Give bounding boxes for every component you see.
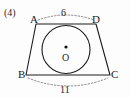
vertex-label-d: D [92, 14, 100, 25]
item-number-label: (4) [4, 8, 16, 18]
geometry-figure: (4) A D B C O 6 11 [0, 0, 131, 98]
vertex-label-a: A [30, 14, 38, 25]
vertex-label-c: C [111, 69, 118, 80]
circle-center-label: O [62, 53, 69, 63]
measure-arc-top [38, 15, 94, 20]
measure-label-top: 6 [61, 8, 66, 18]
inscribed-circle [42, 26, 90, 74]
vertex-label-b: B [18, 69, 25, 80]
measure-label-bottom: 11 [60, 85, 70, 95]
trapezoid-outline [26, 24, 110, 75]
circle-center-dot [64, 45, 67, 48]
